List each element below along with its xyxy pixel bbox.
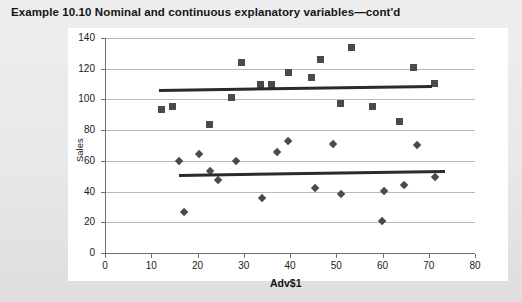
data-point	[348, 44, 355, 51]
data-point	[213, 176, 222, 185]
y-axis-label: Sales	[74, 138, 85, 162]
x-axis-tick-label: 60	[369, 261, 397, 271]
x-axis-tick-label: 0	[91, 261, 119, 271]
y-axis-tick-label: 80	[61, 125, 95, 135]
x-axis-tick	[244, 254, 245, 258]
data-point	[399, 180, 408, 189]
x-axis-tick-label: 70	[415, 261, 443, 271]
x-axis-tick	[151, 254, 152, 258]
x-axis-label: Adv$1	[270, 277, 302, 289]
data-point	[378, 216, 387, 225]
data-point	[195, 150, 204, 159]
x-axis-tick	[336, 254, 337, 258]
x-axis-tick	[383, 254, 384, 258]
x-axis-tick-label: 40	[276, 261, 304, 271]
data-point	[238, 59, 245, 66]
data-point	[175, 156, 184, 165]
regression-line	[159, 85, 432, 92]
y-axis-tick-label: 20	[61, 217, 95, 227]
y-axis-tick-label: 120	[61, 64, 95, 74]
x-axis-tick-label: 50	[322, 261, 350, 271]
scatter-plot: 02040608010012014001020304050607080Sales…	[68, 28, 508, 281]
data-point	[179, 207, 188, 216]
data-point	[169, 103, 176, 110]
data-point	[410, 64, 417, 71]
data-point	[308, 74, 315, 81]
y-axis-tick-label: 40	[61, 187, 95, 197]
x-axis-tick	[198, 254, 199, 258]
x-axis-tick-label: 20	[184, 261, 212, 271]
gridline-y	[105, 222, 475, 223]
gridline-y	[105, 161, 475, 162]
data-point	[317, 56, 324, 63]
x-axis-tick-label: 10	[137, 261, 165, 271]
data-point	[285, 69, 292, 76]
chart-panel: 02040608010012014001020304050607080Sales…	[68, 28, 508, 281]
x-axis-tick	[429, 254, 430, 258]
x-axis-tick-label: 80	[461, 261, 489, 271]
data-point	[158, 106, 165, 113]
gridline-y	[105, 192, 475, 193]
data-point	[231, 156, 240, 165]
page-background: Example 10.10 Nominal and continuous exp…	[0, 0, 522, 302]
data-point	[379, 187, 388, 196]
page-title: Example 10.10 Nominal and continuous exp…	[11, 6, 400, 18]
data-point	[257, 194, 266, 203]
data-point	[396, 118, 403, 125]
x-axis-tick	[290, 254, 291, 258]
data-point	[412, 141, 421, 150]
x-axis-tick	[475, 254, 476, 258]
x-axis-tick	[105, 254, 106, 258]
y-axis-tick-label: 100	[61, 94, 95, 104]
data-point	[273, 148, 282, 157]
data-point	[206, 121, 213, 128]
data-point	[431, 173, 440, 182]
data-point	[283, 136, 292, 145]
y-axis-tick-label: 140	[61, 33, 95, 43]
y-axis-tick-label: 0	[61, 248, 95, 258]
gridline-y	[105, 99, 475, 100]
data-point	[329, 140, 338, 149]
gridline-y	[105, 130, 475, 131]
y-axis-line	[105, 38, 106, 253]
data-point	[228, 94, 235, 101]
data-point	[369, 103, 376, 110]
x-axis-tick-label: 30	[230, 261, 258, 271]
gridline-y	[105, 38, 475, 39]
data-point	[337, 100, 344, 107]
